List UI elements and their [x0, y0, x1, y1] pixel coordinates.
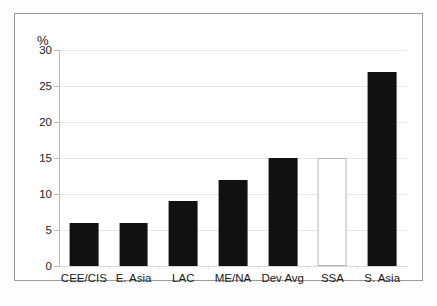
x-tick-label: ME/NA [215, 272, 251, 284]
gridline-0 [59, 266, 407, 267]
x-tick-label: E. Asia [116, 272, 152, 284]
category-separator [208, 266, 209, 270]
category-separator [158, 266, 159, 270]
bar[interactable] [368, 72, 397, 266]
category-separator [357, 266, 358, 270]
chart-frame: % 051015202530 CEE/CISE. AsiaLACME/NADev… [14, 13, 423, 281]
x-tick-label: S. Asia [364, 272, 400, 284]
x-axis-tick-labels: CEE/CISE. AsiaLACME/NADev AvgSSAS. Asia [59, 272, 407, 292]
bar-slot [109, 50, 159, 266]
bar[interactable] [69, 223, 98, 266]
bar[interactable] [318, 158, 347, 266]
category-separator [258, 266, 259, 270]
bar[interactable] [219, 180, 248, 266]
plot-area [59, 50, 407, 266]
figure-container: % 051015202530 CEE/CISE. AsiaLACME/NADev… [0, 0, 437, 306]
y-tick-label-15: 15 [22, 152, 52, 164]
bar-slot [357, 50, 407, 266]
bar[interactable] [119, 223, 148, 266]
y-tick-label-0: 0 [22, 260, 52, 272]
y-tick-mark-0 [54, 266, 59, 267]
bar-slot [308, 50, 358, 266]
x-tick-label: LAC [172, 272, 194, 284]
x-tick-label: CEE/CIS [61, 272, 107, 284]
y-tick-label-30: 30 [22, 44, 52, 56]
y-tick-label-10: 10 [22, 188, 52, 200]
x-tick-label: Dev Avg [261, 272, 304, 284]
x-tick-label: SSA [321, 272, 344, 284]
bar-slot [208, 50, 258, 266]
category-separator [109, 266, 110, 270]
bar-slot [158, 50, 208, 266]
y-tick-label-25: 25 [22, 80, 52, 92]
category-separator [308, 266, 309, 270]
bar[interactable] [268, 158, 297, 266]
bar-slot [59, 50, 109, 266]
y-tick-label-5: 5 [22, 224, 52, 236]
bar[interactable] [169, 201, 198, 266]
y-axis-tick-labels: 051015202530 [15, 50, 52, 266]
y-tick-label-20: 20 [22, 116, 52, 128]
bar-slot [258, 50, 308, 266]
